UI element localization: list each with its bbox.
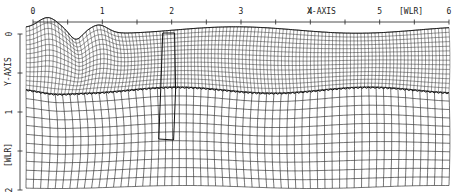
y-axis-title: Y-AXIS (4, 57, 13, 86)
y-axis-unit: [WLR] (4, 143, 13, 167)
x-axis: 0123456 X-AXIS [WLR] (31, 7, 452, 25)
x-tick-label: 2 (169, 7, 174, 16)
x-tick-label: 6 (447, 7, 452, 16)
x-axis-title: X-AXIS (307, 7, 336, 16)
y-axis: 012 Y-AXIS [WLR] (4, 32, 23, 193)
y-tick-label: 2 (5, 188, 14, 193)
deformed-mesh (26, 18, 450, 189)
x-tick-label: 0 (31, 7, 36, 16)
x-tick-label: 1 (100, 7, 105, 16)
mesh-figure: 0123456 X-AXIS [WLR] 012 Y-AXIS [WLR] (0, 0, 455, 194)
y-tick-label: 0 (5, 32, 14, 37)
x-axis-unit: [WLR] (399, 7, 423, 16)
x-tick-label: 3 (239, 7, 244, 16)
x-tick-label: 5 (377, 7, 382, 16)
y-tick-label: 1 (5, 110, 14, 115)
